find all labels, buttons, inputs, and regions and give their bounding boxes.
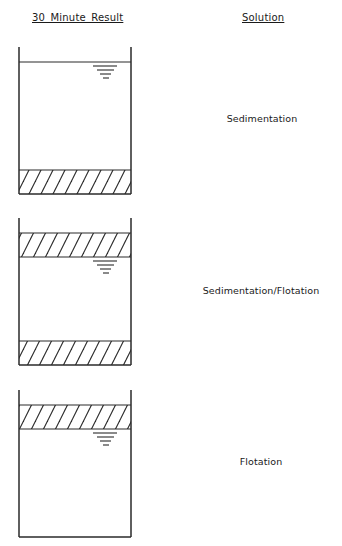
container-flotation [19, 390, 131, 537]
water-level-icon [93, 261, 117, 273]
water-level-icon [93, 433, 117, 445]
settled-sludge-layer [19, 170, 131, 194]
floating-sludge-layer [19, 233, 131, 257]
container-sedimentation [19, 47, 131, 194]
settled-sludge-layer [19, 341, 131, 365]
solution-label-sedimentation: Sedimentation [227, 113, 298, 124]
water-level-icon [93, 66, 117, 78]
container-sedimentation-flotation [19, 218, 131, 365]
settling-diagrams [0, 0, 342, 546]
floating-sludge-layer [19, 405, 131, 429]
solution-label-flotation: Flotation [240, 456, 283, 467]
solution-label-sedimentation-flotation: Sedimentation/Flotation [203, 285, 320, 296]
